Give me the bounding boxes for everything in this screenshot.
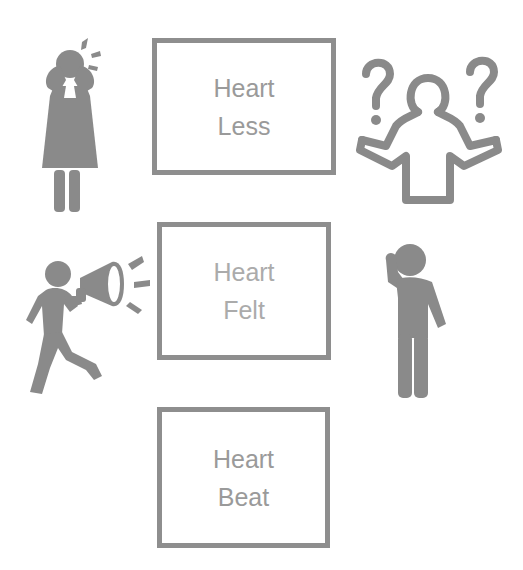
thinking-person-icon: [374, 238, 458, 402]
box-2-line-1: Heart: [213, 253, 274, 291]
heart-beat-box: Heart Beat: [157, 407, 330, 548]
confused-person-question-marks-icon: [356, 50, 516, 210]
box-1-line-2: Less: [218, 107, 271, 145]
box-3-line-1: Heart: [213, 440, 274, 478]
box-2-line-2: Felt: [223, 291, 265, 329]
person-megaphone-icon: [24, 252, 158, 398]
box-1-line-1: Heart: [213, 69, 274, 107]
crying-woman-icon: [36, 36, 116, 214]
box-3-line-2: Beat: [218, 478, 269, 516]
heart-less-box: Heart Less: [152, 38, 336, 175]
heart-felt-box: Heart Felt: [157, 222, 331, 360]
